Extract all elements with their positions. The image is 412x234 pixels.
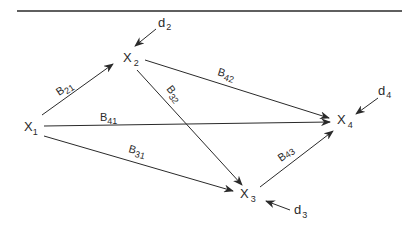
arrow-b43 bbox=[260, 131, 333, 187]
label-b32: B32 bbox=[162, 83, 185, 106]
label-d3: d3 bbox=[294, 202, 307, 220]
node-x4: X4 bbox=[337, 112, 353, 130]
label-b31: B31 bbox=[127, 142, 148, 161]
arrow-d2 bbox=[135, 29, 156, 46]
label-b21: B21 bbox=[54, 78, 77, 100]
label-d2: d2 bbox=[158, 15, 171, 32]
label-b42: B42 bbox=[216, 65, 237, 84]
arrow-d4 bbox=[356, 98, 378, 114]
node-x1: X1 bbox=[24, 119, 38, 137]
label-b41: B41 bbox=[100, 111, 117, 126]
arrow-d3 bbox=[266, 201, 290, 210]
path-diagram: X1 X2 X3 X4 d2 d3 d4 B21 B41 B31 B42 B32… bbox=[0, 0, 412, 234]
arrow-b21 bbox=[42, 64, 113, 115]
node-x2: X2 bbox=[123, 50, 139, 68]
node-x3: X3 bbox=[240, 186, 256, 204]
label-d4: d4 bbox=[378, 83, 391, 100]
